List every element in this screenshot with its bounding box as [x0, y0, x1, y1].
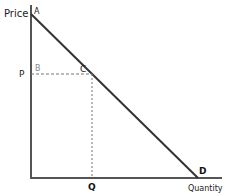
p-tick-label: P [19, 70, 24, 79]
y-axis-label: Price [4, 9, 28, 19]
chart-canvas [0, 0, 232, 196]
point-d-label: D [199, 167, 206, 176]
point-b-label: B [35, 65, 41, 73]
demand-chart: Price A P B C D Q Quantity [0, 0, 232, 196]
q-tick-label: Q [88, 183, 96, 192]
demand-line [31, 14, 198, 178]
point-a-label: A [34, 8, 39, 16]
point-c-label: C [80, 65, 86, 74]
x-axis-label: Quantity [188, 185, 223, 193]
